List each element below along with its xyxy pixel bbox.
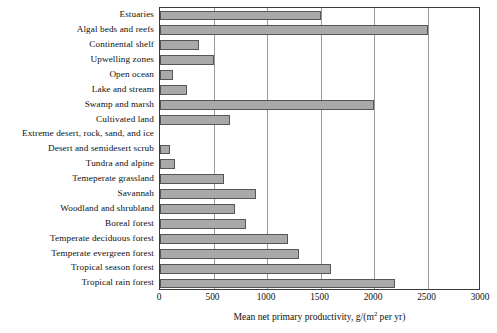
- bar-row: [160, 8, 479, 23]
- category-label: Extreme desert, rock, sand, and ice: [0, 128, 154, 138]
- bar-row: [160, 246, 479, 261]
- category-axis-labels: EstuariesAlgal beds and reefsContinental…: [0, 7, 157, 290]
- x-tick-label: 1000: [257, 292, 276, 303]
- category-label: Tropical season forest: [0, 262, 154, 272]
- plot-area: [159, 7, 480, 290]
- bar-row: [160, 172, 479, 187]
- bar-row: [160, 112, 479, 127]
- category-label: Savannah: [0, 188, 154, 198]
- category-label: Boreal forest: [0, 218, 154, 228]
- bar: [160, 70, 173, 80]
- bar-row: [160, 68, 479, 83]
- x-tick-label: 0: [157, 292, 162, 303]
- x-tick-label: 1500: [310, 292, 329, 303]
- bar: [160, 85, 187, 95]
- bar-row: [160, 261, 479, 276]
- bar-row: [160, 97, 479, 112]
- bar: [160, 279, 395, 289]
- bar-row: [160, 38, 479, 53]
- category-label: Woodland and shrubland: [0, 203, 154, 213]
- x-tick-label: 2000: [364, 292, 383, 303]
- category-label: Continental shelf: [0, 39, 154, 49]
- bar: [160, 189, 256, 199]
- bar: [160, 159, 175, 169]
- bar: [160, 145, 170, 155]
- bar-row: [160, 202, 479, 217]
- bar-chart: EstuariesAlgal beds and reefsContinental…: [0, 0, 497, 333]
- category-label: Cultivated land: [0, 114, 154, 124]
- bar: [160, 249, 299, 259]
- x-axis-tick-labels: 050010001500200025003000: [159, 292, 480, 306]
- bar: [160, 204, 235, 214]
- bar: [160, 25, 428, 35]
- category-label: Upwelling zones: [0, 54, 154, 64]
- category-label: Estuaries: [0, 9, 154, 19]
- bar-row: [160, 157, 479, 172]
- category-label: Swamp and marsh: [0, 99, 154, 109]
- category-label: Temperate deciduous forest: [0, 233, 154, 243]
- bar-row: [160, 53, 479, 68]
- category-label: Tropical rain forest: [0, 277, 154, 287]
- bar: [160, 234, 288, 244]
- bar: [160, 11, 321, 21]
- bar-row: [160, 127, 479, 142]
- bar: [160, 100, 374, 110]
- bar-row: [160, 23, 479, 38]
- bar: [160, 264, 331, 274]
- bar-row: [160, 82, 479, 97]
- bar-row: [160, 231, 479, 246]
- x-tick-label: 2500: [417, 292, 436, 303]
- x-tick-label: 500: [205, 292, 219, 303]
- category-label: Algal beds and reefs: [0, 24, 154, 34]
- category-label: Tundra and alpine: [0, 158, 154, 168]
- category-label: Desert and semidesert scrub: [0, 143, 154, 153]
- bar-row: [160, 276, 479, 291]
- category-label: Open ocean: [0, 69, 154, 79]
- bar: [160, 55, 214, 65]
- x-tick-label: 3000: [471, 292, 490, 303]
- bar-row: [160, 187, 479, 202]
- bar-row: [160, 217, 479, 232]
- category-label: Temeperate grassland: [0, 173, 154, 183]
- category-label: Lake and stream: [0, 84, 154, 94]
- bar: [160, 40, 199, 50]
- bar: [160, 219, 246, 229]
- bar-row: [160, 142, 479, 157]
- category-label: Temperate evergreen forest: [0, 248, 154, 258]
- bar: [160, 174, 224, 184]
- bar: [160, 115, 230, 125]
- x-axis-title: Mean net primary productivity, g/(m2 per…: [159, 311, 480, 323]
